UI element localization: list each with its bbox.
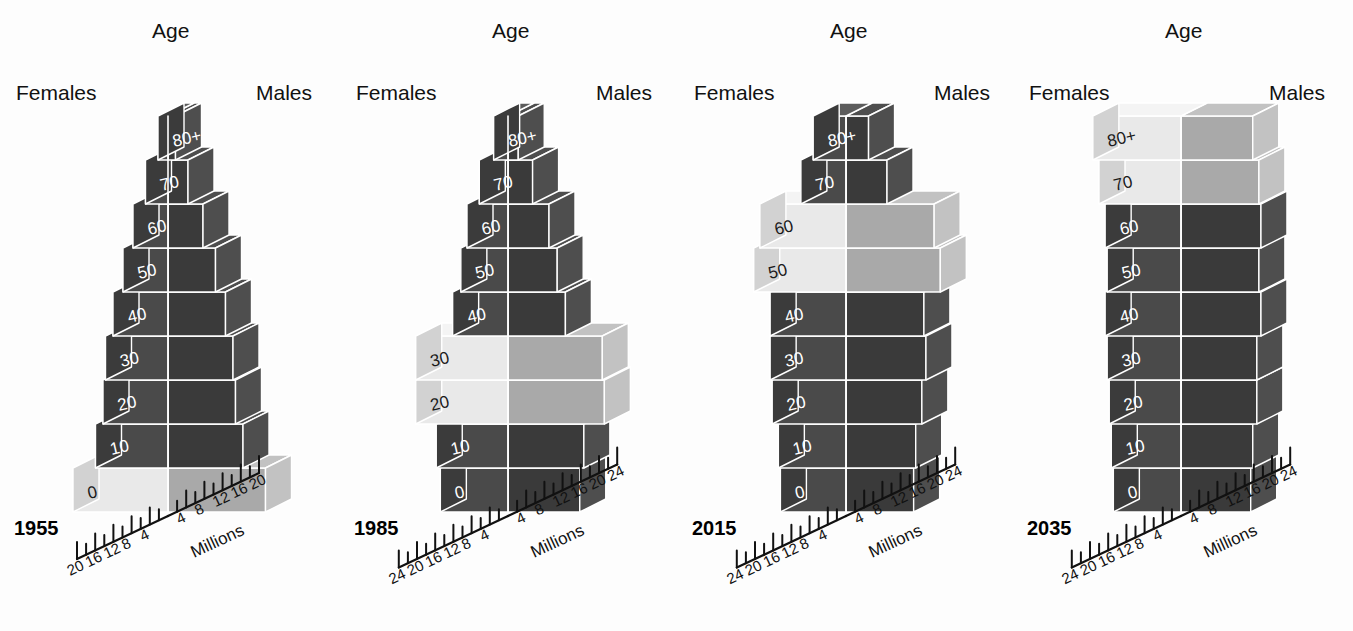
male-bar-front-40: [1181, 292, 1261, 336]
females-header: Females: [356, 81, 437, 104]
male-bar-front-60: [508, 204, 549, 248]
males-header: Males: [596, 81, 652, 104]
age-header: Age: [152, 19, 189, 42]
males-header: Males: [1269, 81, 1325, 104]
axis-tick-label-f8: 8: [1132, 534, 1147, 553]
axis-tick-label-f4: 4: [477, 525, 492, 544]
age-band-80plus: 80+: [494, 103, 545, 160]
age-header: Age: [492, 19, 529, 42]
females-header: Females: [694, 81, 775, 104]
male-bar-front-10: [168, 424, 243, 468]
male-bar-front-60: [1181, 204, 1261, 248]
axis-tick-label-f4: 4: [1150, 525, 1165, 544]
male-bar-front-60: [168, 204, 203, 248]
axis-tick-label-f8: 8: [459, 534, 474, 553]
age-band-80plus: 80+: [813, 103, 894, 160]
male-bar-front-30: [508, 336, 602, 380]
females-header: Females: [16, 81, 97, 104]
male-bar-front-10: [1181, 424, 1253, 468]
axis-title: Millions: [528, 520, 587, 561]
male-bar-front-40: [846, 292, 924, 336]
axis-title: Millions: [866, 520, 925, 561]
male-bar-front-70: [1181, 160, 1259, 204]
bars-group: 01020304050607080+: [1093, 103, 1287, 512]
bars-group: 01020304050607080+: [73, 103, 292, 512]
pyramid-panel-1985: 01020304050607080+48121620244812162024Mi…: [340, 0, 680, 631]
axis-tick-label-f24: 24: [724, 565, 746, 587]
male-bar-front-20: [846, 380, 922, 424]
male-bar-front-50: [508, 248, 557, 292]
male-bar-front-0: [1181, 468, 1251, 512]
axis-tick-label-f24: 24: [1059, 565, 1081, 587]
pyramid-panel-2035: 01020304050607080+48121620244812162024Mi…: [1013, 0, 1353, 631]
axis-tick-label-f4: 4: [137, 525, 152, 544]
pyramid-panel-2015: 01020304050607080+48121620244812162024Mi…: [678, 0, 1018, 631]
females-header: Females: [1029, 81, 1110, 104]
axis-tick-label-f20: 20: [64, 556, 86, 578]
axis-tick-label-f24: 24: [386, 565, 408, 587]
male-bar-front-40: [508, 292, 565, 336]
age-header: Age: [1165, 19, 1202, 42]
population-pyramid-figure: 01020304050607080+4812162048121620Millio…: [0, 0, 1353, 631]
male-bar-front-70: [846, 160, 887, 204]
male-bar-front-30: [1181, 336, 1257, 380]
year-label-1985: 1985: [354, 517, 399, 539]
bars-group: 01020304050607080+: [416, 103, 631, 512]
male-bar-front-10: [846, 424, 916, 468]
age-band-80plus: 80+: [1093, 103, 1279, 160]
year-label-2035: 2035: [1027, 517, 1072, 539]
bars-group: 01020304050607080+: [754, 103, 967, 512]
males-header: Males: [934, 81, 990, 104]
male-bar-front-50: [846, 248, 940, 292]
axis-title: Millions: [188, 520, 247, 561]
male-bar-front-50: [1181, 248, 1259, 292]
axis-title: Millions: [1201, 520, 1260, 561]
male-bar-front-20: [168, 380, 236, 424]
male-bar-front-20: [508, 380, 604, 424]
male-bar-front-30: [846, 336, 926, 380]
male-bar-front-10: [508, 424, 584, 468]
male-bar-front-40: [168, 292, 226, 336]
male-bar-front-60: [846, 204, 934, 248]
pyramid-panel-1955: 01020304050607080+4812162048121620Millio…: [0, 0, 340, 631]
axis-tick-label-f4: 4: [815, 525, 830, 544]
year-label-1955: 1955: [14, 517, 59, 539]
male-bar-front-80+: [1181, 116, 1253, 160]
axis-tick-label-f8: 8: [797, 534, 812, 553]
age-header: Age: [830, 19, 867, 42]
male-bar-front-30: [168, 336, 233, 380]
male-bar-front-20: [1181, 380, 1257, 424]
male-bar-front-50: [168, 248, 216, 292]
males-header: Males: [256, 81, 312, 104]
year-label-2015: 2015: [692, 517, 737, 539]
axis-tick-label-f8: 8: [119, 534, 134, 553]
